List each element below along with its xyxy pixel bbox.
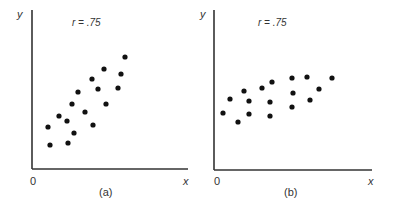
- data-point: [75, 89, 80, 94]
- data-point: [235, 119, 240, 124]
- x-axis-label-b: x: [368, 176, 374, 187]
- data-point: [307, 97, 312, 102]
- data-point: [289, 104, 294, 109]
- data-point: [69, 101, 74, 106]
- r-annotation-b: r = .75: [258, 18, 287, 28]
- data-point: [115, 85, 120, 90]
- data-point: [118, 71, 123, 76]
- data-point: [64, 118, 69, 123]
- data-point: [267, 99, 272, 104]
- data-point: [269, 79, 274, 84]
- scatter-plots: [0, 0, 396, 206]
- caption-b: (b): [284, 187, 297, 198]
- data-point: [101, 66, 106, 71]
- data-point: [267, 113, 272, 118]
- data-point: [95, 86, 100, 91]
- data-point: [65, 140, 70, 145]
- data-point: [304, 74, 309, 79]
- data-point: [103, 101, 108, 106]
- origin-label-a: 0: [30, 176, 36, 187]
- data-point: [289, 75, 294, 80]
- data-point: [246, 98, 251, 103]
- data-point: [246, 111, 251, 116]
- caption-a: (a): [99, 187, 112, 198]
- r-annotation-a: r = .75: [72, 18, 101, 28]
- points-b: [220, 74, 334, 124]
- y-axis-label-a: y: [17, 9, 23, 20]
- data-point: [220, 110, 225, 115]
- data-point: [316, 86, 321, 91]
- data-point: [241, 88, 246, 93]
- data-point: [259, 85, 264, 90]
- data-point: [227, 96, 232, 101]
- points-a: [45, 54, 127, 147]
- data-point: [82, 109, 87, 114]
- data-point: [290, 90, 295, 95]
- data-point: [122, 54, 127, 59]
- origin-label-b: 0: [214, 176, 220, 187]
- data-point: [47, 142, 52, 147]
- x-axis-label-a: x: [183, 176, 189, 187]
- panel-b: [214, 10, 372, 170]
- y-axis-label-b: y: [200, 9, 206, 20]
- data-point: [45, 124, 50, 129]
- data-point: [329, 75, 334, 80]
- r-text-b: r = .75: [258, 17, 287, 28]
- panel-a: [32, 10, 188, 169]
- data-point: [90, 122, 95, 127]
- data-point: [89, 76, 94, 81]
- data-point: [56, 113, 61, 118]
- r-text-a: r = .75: [72, 17, 101, 28]
- data-point: [71, 130, 76, 135]
